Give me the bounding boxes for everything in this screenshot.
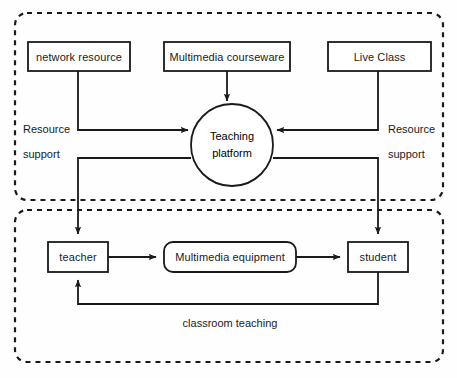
edge-network-resource-to-platform [78,71,188,130]
multimedia-courseware-box[interactable] [164,42,290,71]
teacher-box[interactable] [48,242,108,272]
diagram-vector-layer [0,0,457,378]
student-box[interactable] [348,242,408,272]
edge-platform-to-student [273,158,378,234]
resource-support-left-line1: Resource [23,123,70,135]
teaching-platform-label-line1: Teaching [210,128,254,145]
resource-support-left-line2: support [23,148,60,160]
network-resource-box[interactable] [28,42,130,71]
resource-support-right-line1: Resource [388,123,435,135]
edge-live-class-to-platform [277,71,378,130]
teaching-platform-label-line2: platform [212,145,252,162]
edge-student-to-teacher-feedback [78,272,378,304]
live-class-box[interactable] [328,42,431,71]
edge-platform-to-teacher [78,158,191,234]
multimedia-equipment-box[interactable] [164,242,296,272]
resource-support-right-line2: support [388,148,425,160]
diagram-canvas: network resource Multimedia courseware L… [0,0,457,378]
teaching-platform-label: Teaching platform [191,104,273,186]
